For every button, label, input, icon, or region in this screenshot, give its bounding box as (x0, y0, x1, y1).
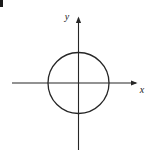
y-axis-arrowhead (76, 17, 81, 24)
coordinate-plane-diagram: y x (0, 0, 155, 156)
y-axis-label: y (64, 11, 70, 22)
x-axis-arrowhead (131, 80, 138, 85)
figure-container: y x (0, 0, 155, 156)
corner-artifact-mark (0, 0, 3, 7)
x-axis-label: x (139, 84, 145, 95)
